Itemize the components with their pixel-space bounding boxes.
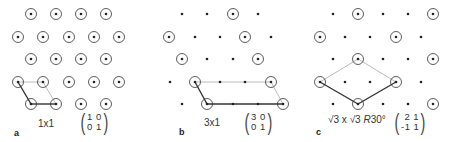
panel-a-letter: a xyxy=(14,128,19,138)
panel-c-matrix: ( 2 1 -1 1 ) xyxy=(393,110,427,134)
lattice-dot xyxy=(407,58,410,61)
lattice-dot xyxy=(282,103,285,106)
times-sign: x xyxy=(339,114,350,125)
lattice-dot xyxy=(382,58,385,61)
lattice-dot xyxy=(432,58,435,61)
lattice-dot xyxy=(194,81,197,84)
lattice-dot xyxy=(257,13,260,16)
lattice-dot xyxy=(270,81,273,84)
lattice-dot xyxy=(357,58,360,61)
lattice-dot xyxy=(80,13,83,16)
lattice-dot xyxy=(332,103,335,106)
lattice-dot xyxy=(30,58,33,61)
lattice-vector xyxy=(358,82,396,104)
matrix-left-paren: ( xyxy=(81,110,86,134)
panel-b-matrix: ( 3 0 0 1 ) xyxy=(243,110,274,134)
lattice-dot xyxy=(319,36,322,39)
panel-a-label: 1x1 xyxy=(38,118,54,129)
matrix-left-paren: ( xyxy=(395,110,400,134)
panel-b-letter: b xyxy=(179,127,185,137)
lattice-dot xyxy=(17,81,20,84)
lattice-dot xyxy=(118,36,121,39)
lattice-dot xyxy=(30,103,33,106)
lattice-dot xyxy=(407,103,410,106)
lattice-dot xyxy=(357,103,360,106)
lattice-dot xyxy=(181,58,184,61)
lattice-dot xyxy=(270,36,273,39)
lattice-dot xyxy=(420,36,423,39)
lattice-dot xyxy=(344,81,347,84)
lattice-dot xyxy=(219,36,222,39)
lattice-dot xyxy=(80,103,83,106)
lattice-dot xyxy=(93,81,96,84)
lattice-dot xyxy=(432,13,435,16)
lattice-dot xyxy=(169,81,172,84)
lattice-dot xyxy=(42,36,45,39)
matrix-left-paren: ( xyxy=(245,110,250,134)
lattice-dot xyxy=(206,103,209,106)
panel-c-lattice xyxy=(315,9,439,110)
lattice-dot xyxy=(382,13,385,16)
lattice-dot xyxy=(105,58,108,61)
lattice-dot xyxy=(232,58,235,61)
rotation-angle: 30° xyxy=(371,114,386,125)
lattice-dot xyxy=(369,81,372,84)
lattice-dot xyxy=(332,58,335,61)
unit-cell-edge xyxy=(43,82,56,104)
matrix-row-2: 0 1 xyxy=(251,122,266,132)
lattice-dot xyxy=(407,13,410,16)
lattice-dot xyxy=(68,36,71,39)
lattice-dot xyxy=(55,58,58,61)
lattice-dot xyxy=(395,81,398,84)
lattice-dot xyxy=(80,58,83,61)
lattice-dot xyxy=(181,103,184,106)
panel-a-lattice xyxy=(13,9,125,110)
panel-c-letter: c xyxy=(316,127,321,137)
matrix-right-paren: ) xyxy=(267,110,272,134)
matrix-row-2: 0 1 xyxy=(87,122,102,132)
lattice-dot xyxy=(118,81,121,84)
unit-cell-edge xyxy=(358,59,396,82)
unit-cell-edge xyxy=(320,59,358,82)
lattice-dot xyxy=(105,13,108,16)
lattice-dot xyxy=(17,36,20,39)
sqrt-3-a: √3 xyxy=(328,114,339,125)
unit-cell-edge xyxy=(271,82,283,104)
lattice-dot xyxy=(232,103,235,106)
panel-b-lattice xyxy=(164,9,289,110)
lattice-dot xyxy=(344,36,347,39)
panel-c-label: √3 x √3 R30° xyxy=(328,114,386,125)
matrix-right-paren: ) xyxy=(421,110,426,134)
lattice-dot xyxy=(420,81,423,84)
lattice-dot xyxy=(244,81,247,84)
lattice-dot xyxy=(395,36,398,39)
lattice-dot xyxy=(105,103,108,106)
lattice-dot xyxy=(93,36,96,39)
lattice-dot xyxy=(257,103,260,106)
lattice-dot xyxy=(244,36,247,39)
lattice-dot xyxy=(332,13,335,16)
matrix-row-2: -1 1 xyxy=(401,122,419,132)
lattice-dot xyxy=(30,13,33,16)
lattice-dot xyxy=(206,13,209,16)
lattice-dot xyxy=(55,13,58,16)
lattice-dot xyxy=(319,81,322,84)
lattice-dot xyxy=(55,103,58,106)
lattice-vector xyxy=(195,82,207,104)
lattice-dot xyxy=(369,36,372,39)
lattice-dot xyxy=(68,81,71,84)
lattice-dot xyxy=(194,36,197,39)
lattice-dot xyxy=(257,58,260,61)
lattice-dot xyxy=(232,13,235,16)
lattice-dot xyxy=(206,58,209,61)
lattice-dot xyxy=(432,103,435,106)
lattice-dot xyxy=(382,103,385,106)
lattice-dot xyxy=(42,81,45,84)
lattice-vector xyxy=(320,82,358,104)
lattice-dot xyxy=(181,13,184,16)
lattice-dot xyxy=(357,13,360,16)
panel-a-matrix: ( 1 0 0 1 ) xyxy=(79,110,110,134)
sqrt-3-b: √3 xyxy=(350,114,361,125)
rotation-r: R xyxy=(361,114,371,125)
matrix-right-paren: ) xyxy=(103,110,108,134)
